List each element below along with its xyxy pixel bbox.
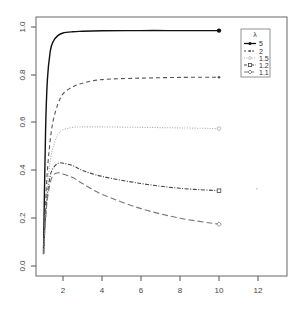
- x-tick-label: 8: [178, 286, 183, 295]
- series-line-1-1: [44, 173, 220, 254]
- x-tick-label: 4: [100, 286, 105, 295]
- x-axis: [63, 276, 258, 281]
- x-tick-label: 10: [215, 286, 224, 295]
- legend: λ 5 2 1.5 1.2 1.1: [241, 29, 270, 77]
- y-tick-label: 1.0: [18, 21, 27, 33]
- y-axis: [31, 27, 36, 266]
- stray-point: [256, 188, 258, 190]
- y-tick-label: 0.0: [18, 260, 27, 272]
- open-square-marker-icon: [248, 63, 251, 66]
- filled-circle-marker-icon: [248, 42, 251, 45]
- open-square-marker-icon: [217, 189, 221, 193]
- legend-label: 1.1: [259, 69, 269, 76]
- series-line-2: [44, 77, 220, 254]
- legend-label: 1.5: [259, 55, 269, 62]
- y-tick-label: 0.2: [18, 212, 27, 224]
- legend-label: 1.2: [259, 62, 269, 69]
- open-circle-marker-icon: [249, 57, 252, 60]
- series-line-1-5: [44, 127, 220, 254]
- y-tick-labels: 0.0 0.2 0.4 0.6 0.8 1.0: [18, 21, 27, 272]
- legend-label: 2: [259, 48, 263, 55]
- y-tick-label: 0.8: [18, 69, 27, 81]
- filled-circle-marker-icon: [217, 28, 221, 32]
- dot-marker-icon: [249, 50, 251, 52]
- x-tick-label: 2: [61, 286, 66, 295]
- open-diamond-marker-icon: [217, 222, 222, 227]
- series-line-1-2: [44, 163, 220, 254]
- legend-label: 5: [259, 40, 263, 47]
- legend-title: λ: [253, 31, 257, 38]
- small-dot-marker-icon: [218, 76, 221, 79]
- y-tick-label: 0.4: [18, 164, 27, 176]
- x-tick-label: 12: [254, 286, 263, 295]
- line-chart: 0.0 0.2 0.4 0.6 0.8 1.0 2 4 6 8 10 12 λ …: [0, 0, 304, 309]
- open-circle-marker-icon: [217, 127, 221, 131]
- y-tick-label: 0.6: [18, 116, 27, 128]
- x-tick-label: 6: [139, 286, 144, 295]
- series-layer: [44, 28, 222, 254]
- x-tick-labels: 2 4 6 8 10 12: [61, 286, 263, 295]
